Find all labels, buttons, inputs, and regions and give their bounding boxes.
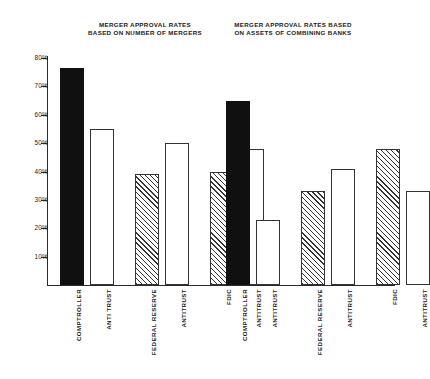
category-label-p1-4: ANTITRUST — [180, 289, 187, 328]
y-tick-label: 70% — [26, 83, 48, 90]
category-label-p2-6: ANTITRUST — [421, 289, 428, 328]
bar-p1-2 — [90, 129, 114, 285]
bar-p1-4 — [165, 143, 189, 285]
bar-p1-1 — [60, 68, 84, 285]
bar-p2-2 — [256, 220, 280, 285]
category-label-p1-3: FEDERAL RESERVE — [150, 289, 157, 355]
y-tick-label: 50% — [26, 140, 48, 147]
category-label-p1-6: ANTITRUST — [255, 289, 262, 328]
bar-p2-5 — [376, 149, 400, 285]
category-label-p2-1: COMPTROLLER — [241, 289, 248, 341]
bar-p1-3 — [135, 174, 159, 285]
y-tick-label: 60% — [26, 111, 48, 118]
category-label-p2-2: ANTITRUST — [271, 289, 278, 328]
bar-p2-6 — [406, 191, 430, 285]
y-tick-label: 40% — [26, 168, 48, 175]
y-tick-label: 20% — [26, 225, 48, 232]
bar-p2-1 — [226, 101, 250, 285]
y-tick-label: 30% — [26, 196, 48, 203]
category-label-p2-3: FEDERAL RESERVE — [316, 289, 323, 355]
category-label-p2-4: ANTITRUST — [346, 289, 353, 328]
bar-p2-3 — [301, 191, 325, 285]
category-label-p1-2: ANTI TRUST — [105, 289, 112, 330]
category-label-p1-1: COMPTROLLER — [75, 289, 82, 341]
bar-p2-4 — [331, 169, 355, 285]
category-label-p1-5: FDIC — [225, 289, 232, 305]
y-tick-label: 80% — [26, 54, 48, 61]
category-label-p2-5: FDIC — [391, 289, 398, 305]
y-tick-label: 10% — [26, 253, 48, 260]
